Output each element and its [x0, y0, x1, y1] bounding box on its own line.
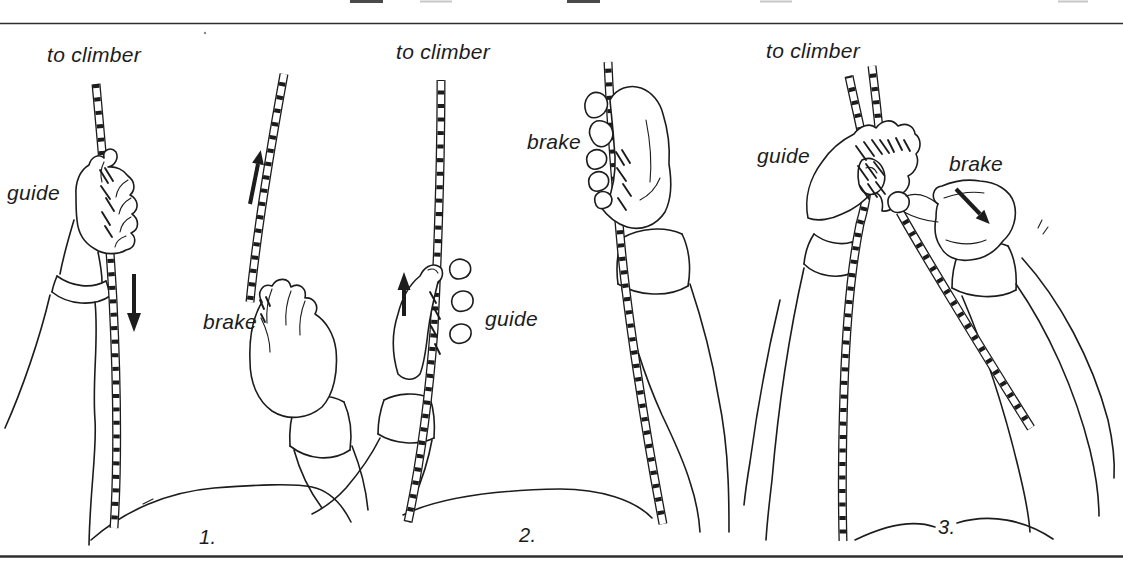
- brake-hand: [585, 87, 671, 229]
- guide-arm-sleeve: [5, 220, 110, 545]
- belayer-body: [403, 489, 652, 518]
- thumb: [590, 121, 613, 147]
- panel1-guide-label: guide: [7, 182, 60, 203]
- thumb: [888, 192, 909, 212]
- panel2-step-number: 2.: [519, 525, 536, 545]
- panel3-guide-label: guide: [757, 145, 810, 166]
- page-frame: [0, 2, 1123, 557]
- illustration-canvas: to climber guide brake 1. to climber bra…: [0, 0, 1123, 581]
- brake-hand: [888, 180, 1048, 260]
- fingertip: [450, 259, 471, 279]
- brake-hand: [250, 279, 337, 417]
- panel3-brake-label: brake: [949, 153, 1003, 174]
- guide-hand: [76, 149, 138, 254]
- brake-arm-sleeve: [617, 229, 729, 532]
- fingertip: [452, 291, 473, 311]
- panel-1-figure: [5, 74, 368, 545]
- panel1-brake-label: brake: [203, 311, 257, 332]
- panel3-step-number: 3.: [938, 517, 955, 537]
- panel-2-figure: [312, 62, 729, 532]
- index-fingertip: [585, 92, 608, 117]
- panel3-to-climber-label: to climber: [766, 40, 860, 61]
- panel2-to-climber-label: to climber: [396, 41, 490, 62]
- brake-arm-sleeve: [952, 243, 1114, 532]
- panel1-step-number: 1.: [199, 527, 216, 547]
- panel2-guide-label: guide: [485, 308, 538, 329]
- panel1-to-climber-label: to climber: [47, 44, 141, 65]
- panel2-brake-label: brake: [527, 131, 581, 152]
- curled-finger: [595, 192, 612, 209]
- line-art: [0, 0, 1123, 581]
- paper-speck: [204, 32, 206, 34]
- panel-3-figure: [744, 66, 1114, 541]
- fingertip: [450, 324, 471, 343]
- curled-finger: [589, 172, 609, 191]
- down-arrow-icon: [127, 274, 141, 332]
- curled-finger: [587, 150, 607, 169]
